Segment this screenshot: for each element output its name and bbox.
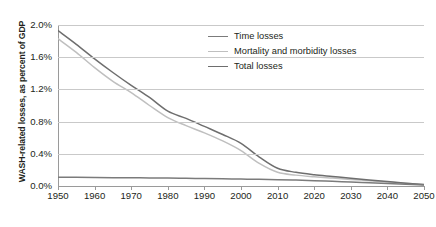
x-tick-label: 1950	[38, 190, 78, 202]
legend-label: Total losses	[234, 61, 283, 72]
legend-swatch-icon	[208, 36, 228, 37]
legend-item[interactable]: Total losses	[208, 59, 408, 74]
x-tick-mark	[314, 186, 315, 190]
x-tick-label: 1970	[111, 190, 151, 202]
x-tick-label: 2040	[367, 190, 407, 202]
y-tick-label: 0.4%	[12, 149, 52, 159]
x-tick-label: 1960	[75, 190, 115, 202]
x-tick-label: 2030	[331, 190, 371, 202]
chart-figure: WASH-related losses, as percent of GDP 0…	[0, 0, 436, 227]
y-tick-label: 1.2%	[12, 84, 52, 94]
x-tick-mark	[387, 186, 388, 190]
x-tick-mark	[131, 186, 132, 190]
chart-legend: Time lossesMortality and morbidity losse…	[208, 29, 408, 74]
x-tick-label: 2000	[221, 190, 261, 202]
legend-swatch-icon	[208, 66, 228, 67]
gridline	[58, 25, 424, 26]
x-tick-mark	[168, 186, 169, 190]
gridline	[58, 154, 424, 155]
x-tick-mark	[424, 186, 425, 190]
x-tick-mark	[204, 186, 205, 190]
y-tick-label: 0.8%	[12, 117, 52, 127]
x-tick-label: 1990	[184, 190, 224, 202]
x-tick-label: 2020	[294, 190, 334, 202]
legend-item[interactable]: Mortality and morbidity losses	[208, 44, 408, 59]
x-tick-mark	[278, 186, 279, 190]
legend-item[interactable]: Time losses	[208, 29, 408, 44]
gridline	[58, 89, 424, 90]
gridline	[58, 122, 424, 123]
y-tick-label: 1.6%	[12, 52, 52, 62]
x-tick-label: 1980	[148, 190, 188, 202]
x-tick-mark	[351, 186, 352, 190]
x-axis-tick-labels: 1950196019701980199020002010202020302040…	[0, 190, 436, 206]
legend-label: Time losses	[234, 31, 283, 42]
x-tick-label: 2050	[404, 190, 436, 202]
x-tick-label: 2010	[258, 190, 298, 202]
x-tick-mark	[58, 186, 59, 190]
x-tick-mark	[241, 186, 242, 190]
x-tick-mark	[95, 186, 96, 190]
y-tick-label: 2.0%	[12, 20, 52, 30]
legend-swatch-icon	[208, 51, 228, 52]
legend-label: Mortality and morbidity losses	[234, 46, 356, 57]
